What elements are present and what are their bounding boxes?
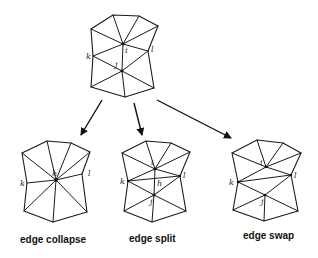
label-l: l <box>88 169 91 178</box>
edge-i-j <box>122 44 123 71</box>
label-k: k <box>86 52 91 61</box>
label-l: l <box>183 171 186 180</box>
caption-edge-collapse: edge collapse <box>20 234 87 245</box>
vertex-h <box>54 178 58 182</box>
label-i: i <box>151 158 154 167</box>
caption-edge-split: edge split <box>129 233 176 244</box>
arrow-to-swap <box>157 100 231 138</box>
label-j: j <box>113 60 118 69</box>
label-l: l <box>151 45 154 54</box>
split-mesh-edges <box>122 141 190 222</box>
swap-mesh-edges <box>232 140 301 221</box>
label-i: i <box>125 46 128 55</box>
arrows <box>81 100 231 138</box>
label-k: k <box>20 179 25 188</box>
vertex-j <box>121 70 124 73</box>
arrow-to-split <box>134 103 142 135</box>
label-j: j <box>259 197 264 206</box>
caption-edge-swap: edge swap <box>243 230 294 241</box>
vertex-i <box>122 43 125 46</box>
edge-collapse-mesh: h k l edge collapse <box>20 141 91 245</box>
edge-split-mesh: i l k h j edge split <box>120 141 190 244</box>
source-mesh: i l k j <box>86 15 158 97</box>
label-h: h <box>157 179 162 188</box>
source-mesh-edges <box>91 15 158 97</box>
mesh-operations-diagram: i l k j h k l edge collapse <box>0 0 318 258</box>
label-i: i <box>260 158 263 167</box>
label-k: k <box>229 178 234 187</box>
label-k: k <box>120 177 125 186</box>
edge-swap-mesh: i l k j edge swap <box>229 140 301 241</box>
label-l: l <box>294 171 297 180</box>
edge-k-l <box>128 176 180 181</box>
label-h: h <box>52 169 57 178</box>
arrow-to-collapse <box>81 100 102 135</box>
